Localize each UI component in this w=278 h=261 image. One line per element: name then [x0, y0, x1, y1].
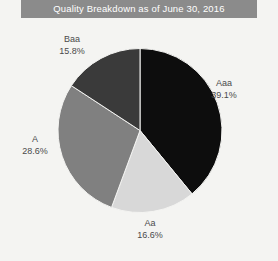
pie-label-aaa-value: 39.1% [196, 90, 252, 102]
pie-slice-group [58, 49, 222, 213]
pie-label-aa: Aa 16.6% [124, 218, 176, 241]
pie-label-aaa-name: Aaa [196, 78, 252, 90]
pie-label-a-value: 28.6% [8, 146, 62, 158]
pie-label-aa-name: Aa [124, 218, 176, 230]
pie-label-baa-name: Baa [46, 34, 98, 46]
pie-chart-figure: Quality Breakdown as of June 30, 2016 Ba… [0, 0, 278, 261]
pie-label-a-name: A [8, 134, 62, 146]
pie-label-aaa: Aaa 39.1% [196, 78, 252, 101]
pie-label-baa-value: 15.8% [46, 46, 98, 58]
pie-label-a: A 28.6% [8, 134, 62, 157]
pie-label-baa: Baa 15.8% [46, 34, 98, 57]
pie-label-aa-value: 16.6% [124, 230, 176, 242]
